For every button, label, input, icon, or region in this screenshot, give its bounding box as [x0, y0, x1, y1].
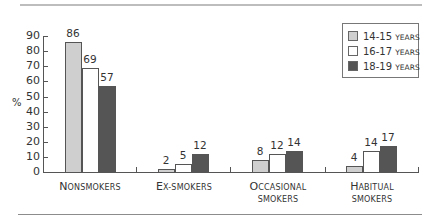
legend-unit: years — [395, 33, 419, 42]
legend-item-16-17: 16-17 years — [348, 46, 420, 58]
bar — [99, 86, 116, 173]
y-tick-label: 80 — [18, 45, 40, 56]
category-label: Occasionalsmokers — [233, 181, 323, 205]
legend-unit: years — [395, 48, 419, 57]
legend-swatch-dark-gray — [348, 61, 358, 71]
category-label-line2: smokers — [352, 195, 393, 204]
y-tick-label: 0 — [18, 166, 40, 177]
legend-item-18-19: 18-19 years — [348, 61, 420, 73]
value-label: 17 — [376, 131, 400, 143]
category-label-rest: abitual — [358, 183, 393, 192]
bar — [346, 166, 363, 173]
x-tick — [418, 167, 419, 173]
category-label: Ex-smokers — [139, 181, 229, 193]
y-tick — [43, 51, 48, 52]
category-label: Nonsmokers — [45, 181, 135, 193]
legend-item-14-15: 14-15 years — [348, 31, 420, 43]
legend-swatch-light-gray — [348, 31, 358, 41]
top-rule — [20, 4, 422, 6]
category-label-rest: x-smokers — [163, 183, 212, 192]
bar — [252, 160, 269, 173]
x-tick — [136, 167, 137, 173]
category-label-initial: O — [250, 180, 259, 193]
bar — [175, 164, 192, 173]
category-label-line2: smokers — [258, 195, 299, 204]
y-axis — [43, 36, 44, 173]
legend: 14-15 years 16-17 years 18-19 years — [342, 23, 419, 78]
x-tick — [230, 167, 231, 173]
value-label: 57 — [95, 71, 119, 83]
bar — [158, 169, 175, 173]
legend-label: 16-17 — [363, 46, 392, 57]
y-tick — [43, 97, 48, 98]
y-tick — [43, 142, 48, 143]
y-tick-label: 30 — [18, 121, 40, 132]
bar — [286, 151, 303, 173]
y-tick — [43, 112, 48, 113]
bar — [363, 151, 380, 173]
bar — [82, 68, 99, 173]
x-tick — [325, 167, 326, 173]
y-tick-label: 10 — [18, 151, 40, 162]
value-label: 14 — [282, 136, 306, 148]
y-tick — [43, 36, 48, 37]
value-label: 69 — [78, 53, 102, 65]
category-label-rest: ccasional — [258, 183, 306, 192]
bar — [380, 146, 397, 173]
y-tick — [43, 81, 48, 82]
bar — [192, 154, 209, 173]
category-label: Habitualsmokers — [327, 181, 417, 205]
y-tick — [43, 66, 48, 67]
legend-label: 14-15 — [363, 31, 392, 42]
y-tick-label: 50 — [18, 91, 40, 102]
y-tick-label: 70 — [18, 60, 40, 71]
value-label: 12 — [188, 139, 212, 151]
category-label-rest: onsmokers — [67, 183, 120, 192]
legend-unit: years — [395, 63, 419, 72]
y-tick — [43, 127, 48, 128]
category-label-initial: E — [156, 180, 163, 193]
y-tick-label: 60 — [18, 75, 40, 86]
y-tick-label: 90 — [18, 30, 40, 41]
bottom-rule — [18, 214, 422, 215]
y-tick-label: 40 — [18, 106, 40, 117]
bar — [269, 154, 286, 173]
y-tick — [43, 157, 48, 158]
legend-label: 18-19 — [363, 61, 392, 72]
value-label: 86 — [61, 27, 85, 39]
legend-swatch-white — [348, 46, 358, 56]
y-tick-label: 20 — [18, 136, 40, 147]
